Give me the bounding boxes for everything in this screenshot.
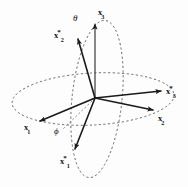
label-x3-sub: 3 [101,13,104,20]
label-x3star-sub: 3 [173,92,176,99]
vector-x3star-axis [95,91,161,98]
vector-x2-axis [95,98,153,110]
label-x1-sub: 1 [27,128,30,135]
label-theta-angle: θ [73,14,77,23]
vector-x2star-axis [78,39,95,98]
label-x1star-star: * [63,154,67,162]
diagram-canvas [0,0,188,187]
label-x2: x2 [158,112,165,125]
label-x2star: x*2 [54,29,65,42]
label-x1: x1 [24,121,31,134]
label-x1star-sub: 1 [67,162,70,169]
label-x2-sub: 2 [161,119,164,126]
label-x3star-star: * [169,84,173,92]
label-x3: x3 [98,6,105,19]
label-x2star-star: * [57,28,61,36]
label-phi-angle: ϕ [54,127,59,136]
label-x2star-sub: 2 [61,36,64,43]
label-x1star: x*1 [60,155,71,168]
label-x3star: x*3 [166,85,177,98]
axes-rotation-figure: x3 x*2 x*3 x2 x1 x*1 θ ϕ [0,0,188,187]
phi-guide-line [63,98,95,129]
